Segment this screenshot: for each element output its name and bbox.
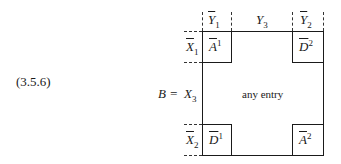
block-bottom-right: A2 — [299, 131, 311, 148]
guide-h3 — [184, 124, 202, 125]
guide-v2 — [231, 12, 232, 31]
guide-v1 — [202, 12, 203, 31]
block-tr-base: D — [299, 39, 308, 54]
col-label-y2: Y2 — [300, 12, 312, 30]
matrix-bottom-border — [202, 155, 324, 156]
block-br-top — [292, 124, 324, 125]
block-tr-left — [292, 31, 293, 63]
equation-number: (3.5.6) — [16, 74, 51, 90]
block-tl-sup: 1 — [217, 38, 222, 48]
block-bl-base: D — [209, 132, 218, 147]
block-top-right: D2 — [299, 38, 313, 55]
center-text: any entry — [242, 88, 283, 100]
col-label-y3: Y3 — [256, 12, 268, 30]
row-x1-sub: 1 — [194, 47, 199, 57]
guide-v4 — [323, 12, 324, 31]
row-x2-sub: 2 — [194, 140, 199, 150]
block-bl-sup: 1 — [218, 131, 223, 141]
block-br-base: A — [299, 132, 307, 147]
block-bl-right — [231, 124, 232, 156]
guide-v3 — [292, 12, 293, 31]
row-x2-base: X — [186, 132, 194, 147]
guide-h1 — [184, 31, 202, 32]
matrix-right-border — [323, 31, 324, 156]
block-tr-bottom — [292, 62, 324, 63]
block-br-left — [292, 124, 293, 156]
block-tr-sup: 2 — [308, 38, 313, 48]
block-bottom-left: D1 — [209, 131, 223, 148]
block-br-sup: 2 — [307, 131, 312, 141]
col-y2-sub: 2 — [307, 20, 312, 30]
block-bl-top — [202, 124, 232, 125]
row-x3-sub: 3 — [192, 94, 197, 104]
row-label-x3: X3 — [184, 86, 196, 104]
matrix-top-border — [202, 31, 324, 32]
col-y3-sub: 3 — [263, 20, 268, 30]
row-x3-base: X — [184, 86, 192, 101]
col-label-y1: Y1 — [208, 12, 220, 30]
guide-h2 — [184, 62, 202, 63]
block-tl-base: A — [209, 39, 217, 54]
row-label-x1: X1 — [186, 39, 198, 57]
lhs-label: B = — [158, 86, 178, 102]
matrix-left-border — [202, 31, 203, 156]
block-top-left: A1 — [209, 38, 221, 55]
row-label-x2: X2 — [186, 132, 198, 150]
guide-h4 — [184, 155, 202, 156]
col-y1-sub: 1 — [215, 20, 220, 30]
row-x1-base: X — [186, 39, 194, 54]
block-tl-right — [231, 31, 232, 63]
block-tl-bottom — [202, 62, 232, 63]
